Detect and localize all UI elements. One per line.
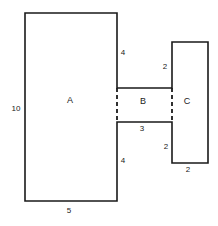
diagram-canvas: A B C 10 5 4 4 3 2 2 2 bbox=[0, 0, 218, 226]
dimension-label-a-bottom: 5 bbox=[63, 206, 75, 215]
dimension-label-b-bottom: 3 bbox=[137, 124, 147, 133]
dimension-label-c-left-bottom: 2 bbox=[161, 142, 171, 151]
region-label-a: A bbox=[64, 95, 76, 105]
composite-outline-path bbox=[25, 13, 208, 201]
region-label-b: B bbox=[137, 96, 149, 106]
dimension-label-a-right-top: 4 bbox=[118, 48, 128, 57]
dimension-label-a-left: 10 bbox=[10, 104, 22, 113]
composite-shape-svg bbox=[0, 0, 218, 226]
dimension-label-c-left-top: 2 bbox=[160, 62, 170, 71]
dimension-label-c-bottom: 2 bbox=[183, 165, 193, 174]
region-label-c: C bbox=[181, 96, 193, 106]
dimension-label-a-right-bottom: 4 bbox=[118, 156, 128, 165]
